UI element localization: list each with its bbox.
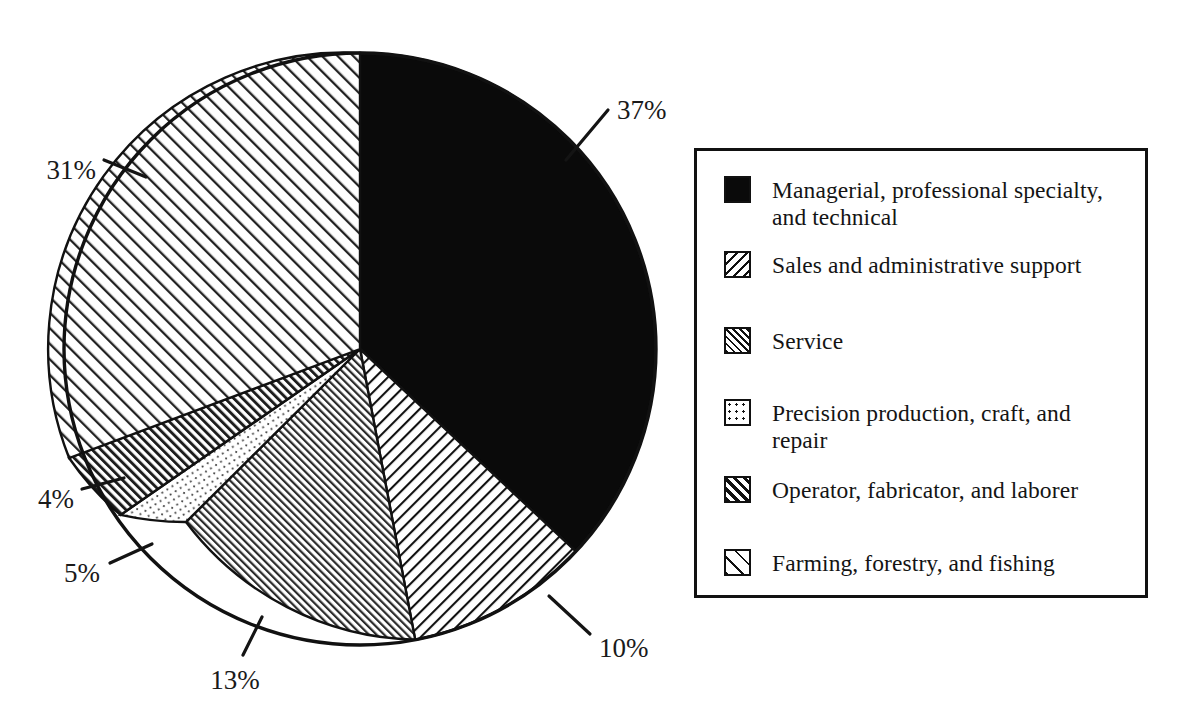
dotted-swatch-icon bbox=[724, 399, 751, 426]
percent-label-37: 37% bbox=[617, 95, 667, 125]
legend-item-operator[interactable]: Operator, fabricator, and laborer bbox=[724, 476, 1134, 504]
solid-black-swatch-icon bbox=[724, 176, 751, 203]
legend: Managerial, professional specialty, and … bbox=[694, 148, 1148, 598]
diagonal-dense-bold-swatch-icon bbox=[724, 476, 751, 503]
percent-label-31: 31% bbox=[47, 155, 97, 185]
legend-item-farming[interactable]: Farming, forestry, and fishing bbox=[724, 549, 1134, 577]
leader-line-37 bbox=[566, 110, 608, 160]
percent-label-10: 10% bbox=[599, 633, 649, 663]
diagonal-wide-swatch-icon bbox=[724, 251, 751, 278]
legend-item-label: Farming, forestry, and fishing bbox=[772, 549, 1055, 577]
legend-item-label: Service bbox=[772, 327, 843, 355]
legend-item-sales[interactable]: Sales and administrative support bbox=[724, 251, 1134, 279]
legend-item-label: Managerial, professional specialty, and … bbox=[772, 176, 1103, 232]
legend-item-managerial[interactable]: Managerial, professional specialty, and … bbox=[724, 176, 1134, 232]
pie-chart-figure: 37% 10% 13% 5% 4% 31% Managerial, profes… bbox=[0, 0, 1191, 716]
leader-line-10 bbox=[549, 596, 590, 634]
diagonal-dense-swatch-icon bbox=[724, 327, 751, 354]
legend-item-label: Precision production, craft, and repair bbox=[772, 399, 1071, 455]
percent-label-13: 13% bbox=[210, 665, 260, 695]
percent-label-5: 5% bbox=[64, 558, 100, 588]
percent-label-4: 4% bbox=[38, 484, 74, 514]
legend-item-label: Operator, fabricator, and laborer bbox=[772, 476, 1078, 504]
diagonal-big-swatch-icon bbox=[724, 549, 751, 576]
legend-item-precision[interactable]: Precision production, craft, and repair bbox=[724, 399, 1134, 455]
legend-item-label: Sales and administrative support bbox=[772, 251, 1081, 279]
legend-item-service[interactable]: Service bbox=[724, 327, 1134, 355]
pie-slices bbox=[48, 53, 656, 645]
